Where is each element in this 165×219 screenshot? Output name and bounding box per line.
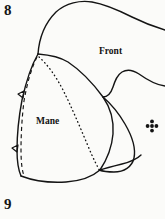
front-lower-right-curve xyxy=(99,97,135,172)
front-neck-contour xyxy=(103,70,165,97)
pattern-label-mane: Mane xyxy=(36,117,59,127)
notch-mark-lower xyxy=(12,145,18,152)
notch-mark-upper xyxy=(18,91,24,98)
pattern-drawing xyxy=(0,0,165,219)
bottom-right-connector xyxy=(100,155,141,170)
mane-bottom-edge xyxy=(21,170,100,182)
four-petal-registration-marker-icon xyxy=(146,120,159,133)
mane-top-edge xyxy=(38,54,113,170)
pattern-figure: 8 9 Front Mane xyxy=(0,0,165,219)
pattern-label-front: Front xyxy=(99,47,122,57)
figure-number-9: 9 xyxy=(4,197,12,212)
figure-number-8: 8 xyxy=(4,3,12,18)
mane-left-edge xyxy=(17,54,38,176)
dotted-fold-line xyxy=(39,57,100,171)
